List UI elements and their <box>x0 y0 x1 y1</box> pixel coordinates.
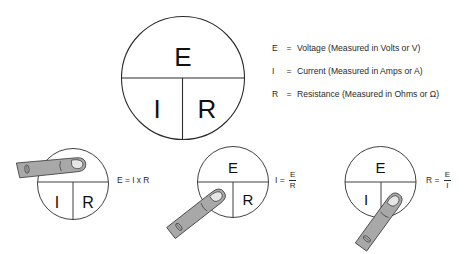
example2-e-label: E <box>228 159 238 176</box>
ohms-law-diagram: E I R I R E R <box>0 0 468 254</box>
fraction-denominator: R <box>290 181 296 190</box>
main-circle-r-label: R <box>198 94 217 124</box>
fraction-numerator: E <box>289 171 296 181</box>
legend-description: Resistance (Measured in Ohms or Ω) <box>297 90 439 99</box>
example2-r-label: R <box>243 191 254 208</box>
formula-lhs: R <box>426 175 432 185</box>
legend-row-voltage: E = Voltage (Measured in Volts or V) <box>272 44 420 53</box>
formula-current: I = E R <box>275 171 296 190</box>
legend-symbol: R <box>272 90 281 99</box>
example3-i-label: I <box>364 191 368 208</box>
example-cover-e: I R <box>16 149 108 220</box>
example3-e-label: E <box>375 159 385 176</box>
fraction-denominator: I <box>446 181 448 190</box>
example-cover-i: E R <box>167 147 269 239</box>
finger-pointer-icon <box>16 157 86 178</box>
formula-fraction: E R <box>289 171 296 190</box>
finger-pointer-icon <box>167 186 228 238</box>
main-circle-i-label: I <box>153 94 160 124</box>
legend-row-resistance: R = Resistance (Measured in Ohms or Ω) <box>272 90 439 99</box>
formula-resistance: R = E I <box>426 171 451 190</box>
legend-description: Current (Measured in Amps or A) <box>297 67 423 76</box>
example1-r-label: R <box>82 194 94 211</box>
formula-equals: = <box>125 175 130 185</box>
formula-equals: = <box>434 175 439 185</box>
legend-row-current: I = Current (Measured in Amps or A) <box>272 67 423 76</box>
legend-equals: = <box>281 90 297 99</box>
finger-pointer-icon <box>355 190 405 251</box>
example-cover-r: E I <box>345 147 416 252</box>
main-circle-e-label: E <box>174 42 191 72</box>
example1-i-label: I <box>55 194 59 211</box>
legend-symbol: I <box>272 67 281 76</box>
formula-voltage: E = I x R <box>117 176 149 184</box>
fraction-numerator: E <box>444 171 451 181</box>
legend-equals: = <box>281 44 297 53</box>
formula-lhs: E <box>117 175 123 185</box>
formula-equals: = <box>280 175 285 185</box>
legend-description: Voltage (Measured in Volts or V) <box>297 44 420 53</box>
formula-fraction: E I <box>444 171 451 190</box>
legend-symbol: E <box>272 44 281 53</box>
formula-lhs: I <box>275 175 277 185</box>
legend-equals: = <box>281 67 297 76</box>
formula-rhs: I x R <box>132 175 149 185</box>
main-ohms-circle: E I R <box>122 17 245 140</box>
